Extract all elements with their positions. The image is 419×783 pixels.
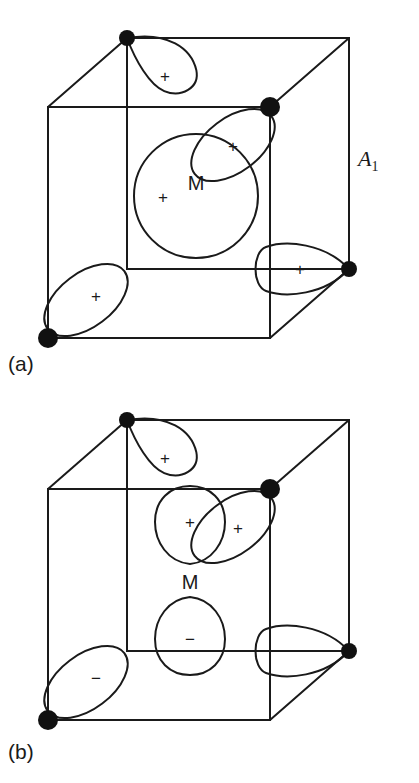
symmetry-label-a-subscript: 1 [371,159,378,174]
caption-b: (b) [8,740,34,764]
ligand-sign-rm-b: − [295,642,305,661]
caption-a: (a) [8,352,34,376]
symmetry-label-a: A1 [358,146,378,175]
ligand-sign-rm-a: + [295,260,305,279]
ligand-node-fbl-a [38,328,58,348]
metal-label-b: M [182,571,199,593]
cube-edge-tr-b [270,420,349,489]
central-orbital-sphere-a: + M [134,134,258,258]
ligand-sign-fbl-b: − [91,669,101,688]
ligand-node-ftr-b [260,479,280,499]
central-orbital-p-b: + M − [155,486,225,675]
ligand-node-rm-a [341,261,357,277]
central-upper-sign-b: + [185,513,195,532]
cube-diagram-b: + M − + + − − [0,382,419,742]
cube-edge-tl-b [48,420,127,489]
ligand-node-rm-b [341,643,357,659]
lobe-shape-btl-b [127,403,202,486]
ligand-orbital-back-top-left-a: + [119,21,202,104]
cube-edge-tr-a [270,38,349,107]
ligand-node-ftr-a [260,97,280,117]
ligand-sign-fbl-a: + [91,287,101,306]
central-lower-sign-b: − [185,630,195,649]
cube-diagram-a: + M + + + + [0,0,419,360]
ligand-orbital-back-top-left-b: + [119,403,202,486]
ligand-node-btl-a [119,30,135,46]
lobe-shape-btl-a [127,21,202,104]
symmetry-label-a-letter: A [358,146,371,171]
ligand-sign-ftr-a: + [228,137,238,156]
ligand-node-fbl-b [38,710,58,730]
figure-panel-b: + M − + + − − T2 [0,382,419,783]
central-sign-a: + [158,188,168,207]
ligand-sign-btl-b: + [160,449,170,468]
cube-edge-tl-a [48,38,127,107]
metal-sphere-a [134,134,258,258]
ligand-node-btl-b [119,412,135,428]
ligand-sign-ftr-b: + [233,519,243,538]
figure-panel-a: + M + + + + A1 [0,0,419,400]
ligand-sign-btl-a: + [160,67,170,86]
